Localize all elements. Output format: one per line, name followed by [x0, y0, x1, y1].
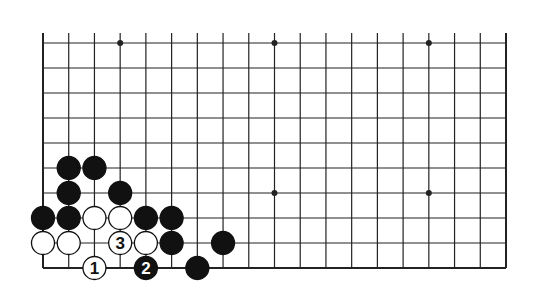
black-stone	[186, 257, 209, 280]
black-stone	[32, 207, 55, 230]
go-board-diagram: 312	[0, 0, 533, 304]
star-point	[117, 40, 123, 46]
white-stone	[83, 207, 106, 230]
black-stone	[83, 157, 106, 180]
move-number: 1	[90, 259, 99, 278]
star-point	[426, 40, 432, 46]
white-stone	[134, 232, 157, 255]
star-point	[426, 190, 432, 196]
white-stone: 3	[109, 232, 132, 255]
black-stone	[160, 207, 183, 230]
white-stone	[57, 232, 80, 255]
black-stone	[212, 232, 235, 255]
black-stone: 2	[134, 257, 157, 280]
black-stone	[109, 182, 132, 205]
white-stone	[32, 232, 55, 255]
white-stone: 1	[83, 257, 106, 280]
black-stone	[57, 182, 80, 205]
move-number: 3	[115, 234, 124, 253]
board-grid	[43, 33, 506, 268]
black-stone	[160, 232, 183, 255]
black-stone	[134, 207, 157, 230]
star-point	[272, 190, 278, 196]
white-stone	[109, 207, 132, 230]
black-stone	[57, 157, 80, 180]
star-point	[272, 40, 278, 46]
black-stone	[57, 207, 80, 230]
move-number: 2	[141, 259, 150, 278]
